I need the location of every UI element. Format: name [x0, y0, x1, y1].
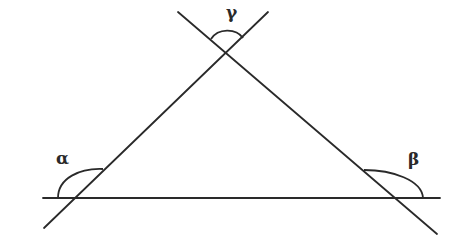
triangle-diagram: [0, 0, 463, 250]
left-side-line: [44, 12, 268, 228]
right-side-line: [178, 12, 437, 234]
gamma-label: γ: [226, 4, 237, 21]
alpha-label: α: [56, 150, 69, 167]
gamma-angle-arc: [211, 31, 243, 39]
beta-label: β: [408, 151, 419, 168]
beta-angle-arc: [364, 170, 423, 198]
